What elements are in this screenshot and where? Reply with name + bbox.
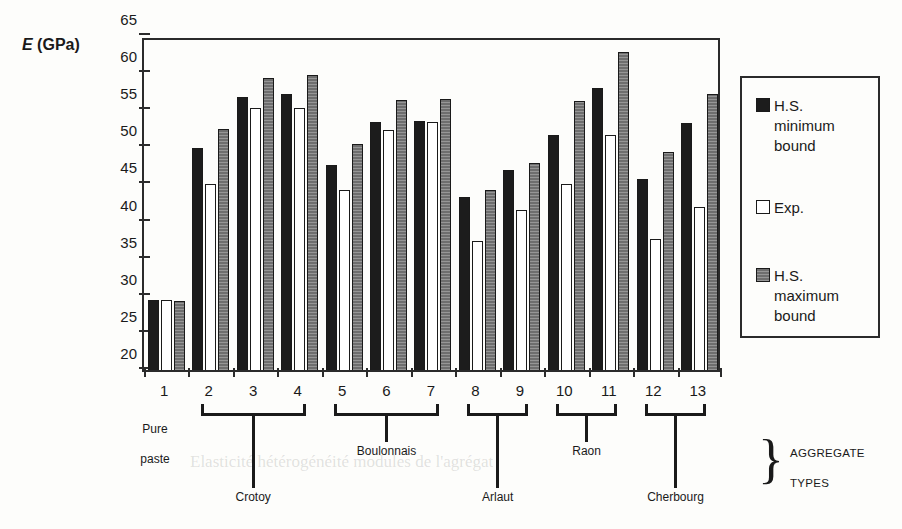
x-axis-tick-label: 8 bbox=[471, 382, 479, 399]
group-bracket-stem bbox=[252, 416, 255, 488]
bar-max bbox=[663, 152, 674, 370]
aggregate-caption-line2: TYPES bbox=[790, 477, 829, 489]
x-axis-tick-mark bbox=[589, 368, 591, 377]
bar-exp bbox=[472, 241, 483, 370]
x-axis-tick-label: 9 bbox=[516, 382, 524, 399]
bar-min bbox=[237, 97, 248, 370]
bar-min bbox=[370, 122, 381, 370]
bar-max bbox=[485, 190, 496, 370]
x-axis-tick-label: 10 bbox=[556, 382, 573, 399]
x-axis-tick-mark bbox=[233, 368, 235, 377]
bar-max bbox=[307, 75, 318, 370]
bar-group bbox=[455, 40, 499, 370]
group-bracket-label: Raon bbox=[572, 444, 601, 458]
x-axis-tick-label: 6 bbox=[382, 382, 390, 399]
gray-square-icon bbox=[756, 268, 770, 282]
bar-min bbox=[414, 121, 425, 370]
group-bracket-stem bbox=[674, 416, 677, 488]
y-axis-tick-label: 45 bbox=[120, 159, 137, 176]
bar-exp bbox=[383, 130, 394, 370]
y-axis-tick-label: 55 bbox=[120, 85, 137, 102]
bar-group bbox=[366, 40, 410, 370]
bar-group bbox=[277, 40, 321, 370]
bar-group bbox=[411, 40, 455, 370]
white-square-icon bbox=[756, 200, 770, 214]
bar-exp bbox=[161, 300, 172, 370]
group-bracket bbox=[201, 404, 306, 416]
chart-page: Elasticité hétérogénéité modules de l'ag… bbox=[0, 0, 902, 529]
legend-item[interactable]: H.S.maximumbound bbox=[756, 266, 839, 326]
x-axis-tick-mark bbox=[720, 368, 722, 377]
legend-item[interactable]: Exp. bbox=[756, 198, 804, 218]
group-bracket-label: Crotoy bbox=[235, 490, 270, 504]
x-axis-tick-label: 4 bbox=[293, 382, 301, 399]
bar-max bbox=[574, 101, 585, 370]
legend-item[interactable]: H.S.minimumbound bbox=[756, 96, 835, 156]
bar-max bbox=[618, 52, 629, 370]
pure-paste-line2: paste bbox=[140, 452, 169, 466]
bar-exp bbox=[250, 108, 261, 370]
bar-exp bbox=[205, 184, 216, 370]
y-axis-tick-label: 40 bbox=[120, 196, 137, 213]
group-bracket-label: Arlaut bbox=[482, 490, 513, 504]
bar-max bbox=[529, 163, 540, 370]
y-axis-tick-label: 30 bbox=[120, 270, 137, 287]
bar-max bbox=[218, 129, 229, 370]
bar-max bbox=[174, 301, 185, 370]
bar-exp bbox=[561, 184, 572, 370]
aggregate-caption-line1: AGGREGATE bbox=[790, 447, 865, 459]
legend-item-label: Exp. bbox=[774, 198, 804, 218]
group-bracket bbox=[334, 404, 439, 416]
bars-layer bbox=[144, 40, 718, 370]
group-bracket-label: Cherbourg bbox=[647, 490, 704, 504]
legend: H.S.minimumboundExp.H.S.maximumbound bbox=[740, 76, 880, 338]
pure-paste-line1: Pure bbox=[142, 422, 167, 436]
y-axis-tick-mark bbox=[139, 33, 150, 35]
bar-exp bbox=[694, 207, 705, 370]
x-axis-tick-label: 7 bbox=[427, 382, 435, 399]
x-axis-tick-label: 3 bbox=[249, 382, 257, 399]
y-axis-tick-label: 65 bbox=[120, 11, 137, 28]
x-axis-tick-label: 11 bbox=[601, 382, 617, 399]
x-axis-tick-mark bbox=[500, 368, 502, 377]
bar-group bbox=[633, 40, 677, 370]
bar-group bbox=[144, 40, 188, 370]
bar-group bbox=[589, 40, 633, 370]
x-axis-tick-mark bbox=[188, 368, 190, 377]
y-axis-unit: (GPa) bbox=[33, 36, 80, 53]
bar-max bbox=[440, 99, 451, 370]
black-square-icon bbox=[756, 98, 770, 112]
x-axis-tick-label: 12 bbox=[645, 382, 662, 399]
y-axis-tick-label: 25 bbox=[120, 307, 137, 324]
x-axis-tick-mark bbox=[678, 368, 680, 377]
bar-min bbox=[637, 179, 648, 370]
x-axis-tick-mark bbox=[411, 368, 413, 377]
bar-min bbox=[148, 300, 159, 370]
group-bracket bbox=[467, 404, 527, 416]
group-bracket bbox=[645, 404, 705, 416]
bar-group bbox=[544, 40, 588, 370]
bar-min bbox=[459, 197, 470, 370]
x-axis-tick-label: 13 bbox=[689, 382, 706, 399]
group-bracket-stem bbox=[496, 416, 499, 488]
y-axis-tick-label: 20 bbox=[120, 345, 137, 362]
legend-item-label: H.S.minimumbound bbox=[774, 96, 835, 156]
bar-min bbox=[681, 123, 692, 370]
x-axis-tick-label: 1 bbox=[160, 382, 168, 399]
x-axis-tick-mark bbox=[144, 368, 146, 377]
x-axis-tick-mark bbox=[322, 368, 324, 377]
x-axis-tick-labels: 12345678910111213 bbox=[142, 382, 720, 404]
bar-max bbox=[396, 100, 407, 370]
bar-max bbox=[263, 78, 274, 370]
bar-group bbox=[678, 40, 722, 370]
group-bracket-stem bbox=[385, 416, 388, 442]
x-axis-tick-mark bbox=[455, 368, 457, 377]
y-axis-tick-label: 35 bbox=[120, 233, 137, 250]
plot-area: 20253035404550556065 bbox=[142, 38, 720, 372]
bar-exp bbox=[516, 210, 527, 370]
bar-group bbox=[188, 40, 232, 370]
bar-min bbox=[281, 94, 292, 370]
bar-min bbox=[326, 165, 337, 370]
bar-exp bbox=[294, 108, 305, 370]
x-axis-tick-mark bbox=[277, 368, 279, 377]
